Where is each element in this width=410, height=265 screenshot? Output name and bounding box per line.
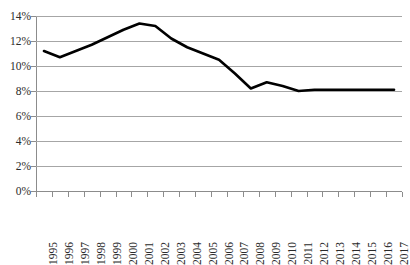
x-tick-label: 2014 <box>351 242 363 265</box>
x-tick-label: 2001 <box>144 242 156 265</box>
x-tick-label: 2009 <box>271 242 283 265</box>
x-tick-label: 1997 <box>80 242 92 265</box>
y-tick-label: 2% <box>16 160 31 172</box>
y-tickmark <box>31 16 36 17</box>
x-tickmark <box>195 192 196 197</box>
x-tickmark <box>402 192 403 197</box>
x-tick-label: 2005 <box>208 242 220 265</box>
x-tick-label: 2012 <box>319 242 331 265</box>
y-axis-tick-labels: 0%2%4%6%8%10%12%14% <box>0 0 34 248</box>
x-tickmark <box>52 192 53 197</box>
x-tickmark <box>354 192 355 197</box>
y-tick-label: 0% <box>16 185 31 197</box>
y-tick-label: 14% <box>10 10 31 22</box>
x-tick-label: 1996 <box>64 242 76 265</box>
y-tickmark <box>31 141 36 142</box>
x-tickmark <box>84 192 85 197</box>
x-tick-label: 2008 <box>255 242 267 265</box>
x-tick-label: 2000 <box>128 242 140 265</box>
x-tickmark <box>338 192 339 197</box>
x-tickmark <box>322 192 323 197</box>
y-tickmark <box>31 191 36 192</box>
x-tickmark <box>131 192 132 197</box>
x-tick-label: 2003 <box>176 242 188 265</box>
x-tickmark <box>291 192 292 197</box>
x-tickmark <box>68 192 69 197</box>
x-tickmark <box>116 192 117 197</box>
y-tick-label: 12% <box>10 35 31 47</box>
x-tick-label: 2015 <box>367 242 379 265</box>
y-tick-label: 6% <box>16 110 31 122</box>
y-tick-label: 4% <box>16 135 31 147</box>
x-tickmark <box>147 192 148 197</box>
plot-area <box>36 16 402 191</box>
x-tick-label: 1998 <box>96 242 108 265</box>
x-tick-label: 2006 <box>224 242 236 265</box>
x-tick-label: 2007 <box>239 242 251 265</box>
x-tickmark <box>386 192 387 197</box>
x-tickmark <box>179 192 180 197</box>
x-tickmark <box>370 192 371 197</box>
y-tick-label: 8% <box>16 85 31 97</box>
y-tick-label: 10% <box>10 60 31 72</box>
x-tick-label: 2016 <box>383 242 395 265</box>
x-tick-label: 2017 <box>399 242 410 265</box>
y-tickmark <box>31 116 36 117</box>
x-tickmark <box>36 192 37 197</box>
x-tick-label: 1995 <box>48 242 60 265</box>
x-tick-label: 2004 <box>192 242 204 265</box>
x-tick-label: 2011 <box>303 242 315 265</box>
x-tick-label: 2002 <box>160 242 172 265</box>
x-tickmark <box>243 192 244 197</box>
x-tickmark <box>163 192 164 197</box>
x-tickmark <box>227 192 228 197</box>
x-tickmark <box>100 192 101 197</box>
y-tickmark <box>31 41 36 42</box>
x-tick-label: 1999 <box>112 242 124 265</box>
x-axis-tick-labels: 1995199619971998199920002001200220032004… <box>36 198 402 248</box>
y-tickmark <box>31 66 36 67</box>
y-tickmark <box>31 166 36 167</box>
x-tick-label: 2010 <box>287 242 299 265</box>
x-tickmark <box>307 192 308 197</box>
x-tickmark <box>211 192 212 197</box>
series-line <box>36 16 402 191</box>
x-tick-label: 2013 <box>335 242 347 265</box>
y-tickmark <box>31 91 36 92</box>
x-tickmark <box>275 192 276 197</box>
x-tickmark <box>259 192 260 197</box>
